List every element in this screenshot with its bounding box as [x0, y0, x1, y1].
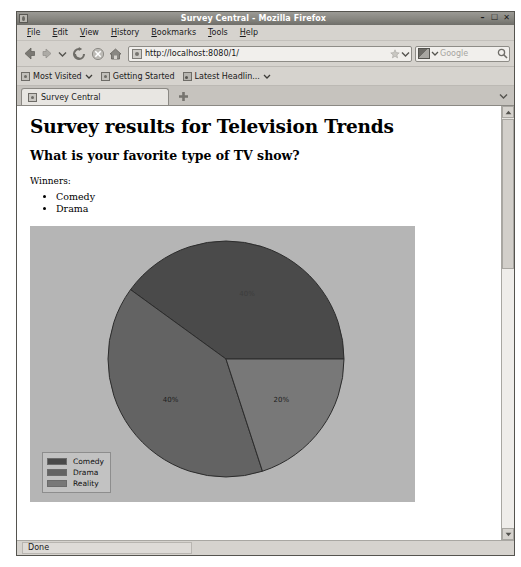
menu-label: dit — [57, 28, 67, 37]
pie-label-reality: 20% — [274, 396, 290, 404]
bookmark-star-icon[interactable] — [389, 48, 400, 59]
home-icon — [108, 47, 123, 61]
menu-label: elp — [246, 28, 258, 37]
globe-icon — [21, 72, 30, 81]
back-arrow-icon — [22, 47, 37, 60]
page-subtitle: What is your favorite type of TV show? — [30, 148, 501, 163]
menu-item-tools[interactable]: Tools — [202, 28, 234, 37]
legend-label: Reality — [73, 479, 99, 488]
pie-chart-image: 40% 40% 20% Comedy Drama Realit — [30, 226, 415, 502]
close-button[interactable]: ✕ — [501, 14, 512, 24]
navigation-toolbar: http://localhost:8080/1/ Google — [17, 41, 514, 67]
feed-icon — [183, 72, 192, 81]
reload-button[interactable] — [71, 45, 88, 62]
vertical-scrollbar[interactable] — [501, 106, 514, 540]
search-input[interactable]: Google — [439, 49, 495, 58]
reload-icon — [72, 47, 87, 61]
menu-item-history[interactable]: History — [105, 28, 145, 37]
tab-list-button[interactable] — [497, 90, 509, 102]
tab-strip: Survey Central — [17, 86, 514, 105]
home-button[interactable] — [107, 45, 124, 62]
winners-list: Comedy Drama — [30, 191, 501, 214]
scroll-down-button[interactable] — [502, 528, 514, 540]
back-button[interactable] — [21, 45, 38, 62]
url-favicon-icon — [132, 49, 142, 59]
bookmark-most-visited[interactable]: Most Visited — [21, 72, 93, 81]
scrollbar-track[interactable] — [502, 269, 514, 528]
stop-icon — [91, 47, 105, 61]
menu-label: ile — [31, 28, 40, 37]
chevron-down-icon — [505, 532, 512, 537]
scroll-up-button[interactable] — [502, 106, 514, 118]
search-submit-button[interactable] — [495, 48, 509, 59]
legend-item-drama: Drama — [47, 467, 104, 478]
maximize-button[interactable]: ☐ — [489, 14, 500, 24]
minimize-button[interactable]: – — [477, 14, 488, 24]
scrollbar-thumb[interactable] — [502, 119, 514, 269]
menu-label: iew — [85, 28, 99, 37]
status-bar: Done — [17, 540, 514, 555]
stop-button[interactable] — [89, 45, 106, 62]
legend-item-reality: Reality — [47, 478, 104, 489]
winners-label: Winners: — [30, 176, 501, 186]
search-engine-dropdown[interactable] — [430, 51, 439, 56]
search-bar[interactable]: Google — [415, 46, 510, 62]
globe-icon — [101, 72, 110, 81]
menu-label: ookmarks — [157, 28, 196, 37]
status-text: Done — [22, 542, 192, 554]
firefox-icon — [19, 14, 28, 23]
tab-label: Survey Central — [41, 93, 101, 102]
tab-survey-central[interactable]: Survey Central — [21, 88, 169, 105]
minimize-icon: – — [481, 13, 485, 22]
forward-button[interactable] — [39, 45, 56, 62]
chevron-down-icon — [499, 93, 508, 99]
list-item: Drama — [56, 203, 501, 214]
url-dropdown-button[interactable] — [400, 51, 411, 57]
bookmark-label: Most Visited — [33, 72, 82, 81]
bookmark-latest-headlines[interactable]: Latest Headlin... — [183, 72, 271, 81]
pie-label-drama: 40% — [163, 396, 179, 404]
list-item: Comedy — [56, 191, 501, 202]
chevron-down-icon — [431, 51, 439, 56]
title-bar: Survey Central - Mozilla Firefox – ☐ ✕ — [17, 12, 514, 25]
menu-label: ools — [212, 28, 228, 37]
legend-item-comedy: Comedy — [47, 456, 104, 467]
chevron-up-icon — [505, 110, 512, 115]
menu-item-file[interactable]: File — [21, 28, 46, 37]
page-title: Survey results for Television Trends — [30, 116, 501, 137]
chevron-down-icon — [85, 74, 93, 79]
page-content: Survey results for Television Trends Wha… — [17, 106, 501, 540]
legend-swatch — [47, 480, 67, 487]
chart-legend: Comedy Drama Reality — [42, 452, 111, 493]
new-tab-button[interactable] — [173, 88, 193, 105]
bookmark-label: Getting Started — [113, 72, 175, 81]
search-engine-icon[interactable] — [418, 48, 430, 59]
browser-window: Survey Central - Mozilla Firefox – ☐ ✕ F… — [16, 11, 515, 556]
pie-label-comedy: 40% — [239, 290, 255, 298]
menu-item-help[interactable]: Help — [234, 28, 264, 37]
bookmark-getting-started[interactable]: Getting Started — [101, 72, 175, 81]
url-bar[interactable]: http://localhost:8080/1/ — [128, 46, 412, 62]
legend-swatch — [47, 458, 67, 465]
window-title: Survey Central - Mozilla Firefox — [31, 14, 476, 23]
legend-label: Comedy — [73, 457, 104, 466]
chevron-down-icon — [58, 51, 67, 57]
legend-label: Drama — [73, 468, 98, 477]
plus-icon — [178, 91, 189, 102]
forward-arrow-icon — [40, 47, 55, 60]
chevron-down-icon — [263, 74, 271, 79]
page-favicon-icon — [28, 93, 37, 102]
close-icon: ✕ — [503, 13, 510, 22]
menu-item-view[interactable]: View — [74, 28, 105, 37]
legend-swatch — [47, 469, 67, 476]
bookmark-label: Latest Headlin... — [195, 72, 260, 81]
maximize-icon: ☐ — [491, 13, 498, 22]
menu-item-bookmarks[interactable]: Bookmarks — [145, 28, 202, 37]
history-dropdown-button[interactable] — [57, 46, 68, 62]
menu-item-edit[interactable]: Edit — [46, 28, 74, 37]
search-icon — [497, 48, 508, 59]
url-input[interactable]: http://localhost:8080/1/ — [145, 49, 389, 58]
chevron-down-icon — [401, 51, 410, 57]
menu-bar: File Edit View History Bookmarks Tools H… — [17, 25, 514, 41]
content-area: Survey results for Television Trends Wha… — [17, 105, 514, 540]
